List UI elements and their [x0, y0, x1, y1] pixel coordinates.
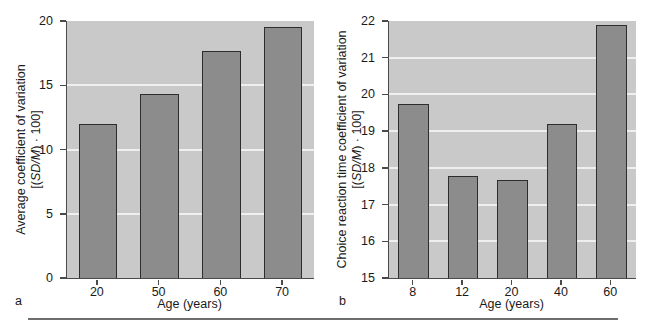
panel-b-x-tick-20	[511, 280, 513, 285]
panel-a: Average coefficient of variation [(SD/M)…	[0, 0, 323, 327]
panel-a-x-tick-label-60: 60	[197, 286, 243, 299]
panel-b-y-tick-label-17: 17	[335, 199, 375, 212]
panel-b-bar-60	[596, 25, 627, 278]
panel-a-y-tick-label-5: 5	[13, 208, 53, 221]
panel-b-x-axis-title: Age (years)	[388, 297, 635, 311]
panel-a-bar-70	[264, 27, 302, 278]
panel-b-x-tick-label-8: 8	[390, 286, 436, 299]
panel-b-y-tick-label-21: 21	[335, 52, 375, 65]
panel-a-y-tick-10	[60, 149, 66, 151]
panel-b-y-tick-label-18: 18	[335, 162, 375, 175]
panel-a-letter: a	[15, 294, 22, 308]
panel-b-x-tick-label-60: 60	[587, 286, 633, 299]
panel-a-y-tick-20	[60, 20, 66, 22]
panel-a-x-tick-60	[220, 280, 222, 285]
panel-b-x-tick-label-12: 12	[439, 286, 485, 299]
panel-a-bar-50	[140, 94, 178, 278]
panel-a-y-tick-label-20: 20	[13, 15, 53, 28]
panel-a-x-tick-label-70: 70	[259, 286, 305, 299]
panel-b: Choice reaction time coefficient of vari…	[323, 0, 646, 327]
panel-a-y-tick-label-0: 0	[13, 272, 53, 285]
panel-b-y-tick-15	[382, 277, 388, 279]
panel-b-bar-12	[448, 176, 479, 278]
panel-b-letter: b	[339, 294, 346, 308]
panel-a-y-tick-15	[60, 85, 66, 87]
panel-b-y-tick-17	[382, 204, 388, 206]
panel-b-y-tick-21	[382, 57, 388, 59]
panel-b-y-tick-18	[382, 167, 388, 169]
panel-b-y-tick-22	[382, 20, 388, 22]
panel-b-y-tick-label-20: 20	[335, 88, 375, 101]
panel-a-bar-20	[79, 124, 117, 278]
panel-b-x-tick-12	[461, 280, 463, 285]
panel-b-bar-20	[497, 180, 528, 278]
panel-b-y-tick-20	[382, 94, 388, 96]
panel-a-bar-60	[202, 51, 240, 278]
panel-b-x-tick-label-20: 20	[489, 286, 535, 299]
panel-b-y-tick-label-16: 16	[335, 235, 375, 248]
panel-b-x-tick-8	[412, 280, 414, 285]
panel-b-y-tick-label-22: 22	[335, 15, 375, 28]
panel-a-x-tick-70	[281, 280, 283, 285]
panel-a-x-tick-50	[158, 280, 160, 285]
panel-b-x-tick-label-40: 40	[538, 286, 584, 299]
figure-container: Average coefficient of variation [(SD/M)…	[0, 0, 646, 327]
figure-bottom-rule	[28, 318, 618, 320]
panel-b-y-tick-16	[382, 241, 388, 243]
panel-a-y-tick-label-10: 10	[13, 144, 53, 157]
panel-a-y-tick-label-15: 15	[13, 79, 53, 92]
panel-a-plot-area	[66, 21, 314, 279]
panel-b-y-tick-19	[382, 130, 388, 132]
panel-b-x-tick-40	[560, 280, 562, 285]
panel-b-bar-40	[547, 124, 578, 278]
panel-b-x-tick-60	[610, 280, 612, 285]
panel-a-y-tick-5	[60, 213, 66, 215]
panel-a-x-tick-20	[96, 280, 98, 285]
panel-a-y-tick-0	[60, 277, 66, 279]
panel-b-plot-area	[388, 21, 636, 279]
panel-a-x-tick-label-20: 20	[74, 286, 120, 299]
panel-a-x-tick-label-50: 50	[136, 286, 182, 299]
panel-a-x-axis-title: Age (years)	[66, 297, 313, 311]
panel-b-y-tick-label-15: 15	[335, 272, 375, 285]
panel-b-bar-8	[398, 104, 429, 278]
panel-b-y-tick-label-19: 19	[335, 125, 375, 138]
